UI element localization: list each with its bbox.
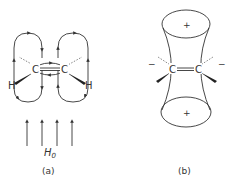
panel-b: + + C C − − (b) bbox=[148, 10, 226, 176]
diagram-canvas: C C H H H0 (a) + + bbox=[0, 0, 231, 185]
pi-circulation bbox=[36, 63, 64, 75]
atom-hydrogen-left: H bbox=[8, 80, 16, 91]
caption-a: (a) bbox=[42, 166, 55, 176]
applied-field-arrows bbox=[27, 121, 72, 146]
field-label: H0 bbox=[44, 147, 57, 160]
panel-a: C C H H H0 (a) bbox=[8, 33, 93, 176]
atom-carbon-right: C bbox=[61, 64, 68, 75]
wedge-bond-b-right bbox=[200, 72, 217, 83]
atom-carbon-left: C bbox=[32, 64, 39, 75]
cone-bottom-sign: + bbox=[183, 108, 191, 118]
right-minus-sign: − bbox=[218, 59, 226, 69]
left-minus-sign: − bbox=[148, 59, 156, 69]
cone-top-sign: + bbox=[183, 20, 191, 30]
atom-b-carbon-left: C bbox=[169, 64, 176, 75]
atom-b-carbon-right: C bbox=[195, 64, 202, 75]
atom-hydrogen-right: H bbox=[85, 80, 93, 91]
cone-right-side bbox=[201, 28, 210, 110]
caption-b: (b) bbox=[178, 166, 191, 176]
